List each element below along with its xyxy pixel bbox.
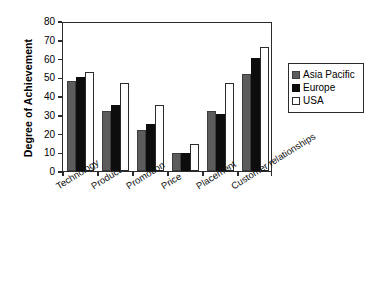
y-axis-tick-label: 80 <box>44 15 55 28</box>
bar-group <box>63 23 98 171</box>
y-axis-tick-layer: 80706050403020100 <box>0 22 62 172</box>
bar <box>225 83 234 171</box>
bar-group <box>133 23 168 171</box>
bar <box>190 144 199 171</box>
bar <box>137 130 146 171</box>
plot-area <box>62 22 272 172</box>
y-axis-tick-label: 0 <box>49 165 55 178</box>
bar-group <box>168 23 203 171</box>
bar <box>111 105 120 171</box>
legend-item: Asia Pacific <box>292 69 360 81</box>
legend-item: Europe <box>292 82 360 94</box>
y-axis-tick-label: 20 <box>44 128 55 141</box>
y-axis-tick-label: 70 <box>44 34 55 47</box>
y-axis-tick-label: 50 <box>44 71 55 84</box>
bar <box>242 74 251 172</box>
bar <box>172 153 181 171</box>
bar <box>207 111 216 171</box>
legend-item: USA <box>292 95 360 107</box>
bar <box>251 58 260 171</box>
bar <box>181 153 190 171</box>
y-axis-tick-label: 10 <box>44 146 55 159</box>
legend-swatch <box>292 97 300 105</box>
legend-label: USA <box>303 95 324 107</box>
bar-chart-figure: Degree of Achievement 80706050403020100 … <box>0 0 368 292</box>
bar <box>67 81 76 171</box>
legend-swatch <box>292 71 300 79</box>
bar-group <box>98 23 133 171</box>
bars-layer <box>63 23 271 171</box>
chart-legend: Asia PacificEuropeUSA <box>288 63 364 113</box>
y-axis-tick-label: 40 <box>44 90 55 103</box>
bar <box>102 111 111 171</box>
bar-group <box>203 23 238 171</box>
bar <box>85 72 94 171</box>
bar <box>120 83 129 171</box>
x-axis-tick-mark <box>271 172 273 176</box>
y-axis-tick-label: 30 <box>44 109 55 122</box>
legend-swatch <box>292 84 300 92</box>
bar-group <box>238 23 273 171</box>
y-axis-tick-label: 60 <box>44 53 55 66</box>
legend-label: Asia Pacific <box>303 69 355 81</box>
bar <box>76 77 85 171</box>
bar <box>260 47 269 171</box>
legend-label: Europe <box>303 82 335 94</box>
